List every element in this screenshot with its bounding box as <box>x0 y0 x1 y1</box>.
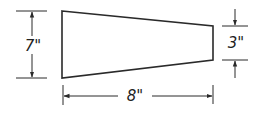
trapezoid-shape <box>62 11 213 78</box>
left-dimension: 7" <box>16 11 47 78</box>
diagram-canvas: 7" 3" 8" <box>0 0 260 114</box>
trapezoid-diagram: 7" 3" 8" <box>0 0 260 114</box>
bottom-dimension-label: 8" <box>127 87 143 105</box>
left-dimension-label: 7" <box>25 37 41 55</box>
bottom-dimension: 8" <box>63 85 213 105</box>
right-dimension: 3" <box>222 9 248 78</box>
right-dimension-label: 3" <box>228 34 244 52</box>
